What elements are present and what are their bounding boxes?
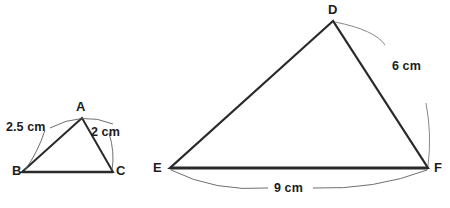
leader-arc-side-ef-right [313, 170, 427, 188]
leader-arc-side-df-top [335, 22, 385, 45]
vertex-label-d: D [328, 3, 337, 16]
measure-label-side-ac: 2 cm [91, 126, 120, 139]
vertex-label-f: F [434, 161, 442, 174]
geometry-canvas [0, 0, 450, 208]
leader-arc-side-ef-left [171, 170, 268, 189]
triangle-def [170, 21, 428, 168]
triangle-def-outline [170, 21, 428, 168]
vertex-label-e: E [153, 161, 162, 174]
geometry-figure: A B C D E F 2.5 cm 2 cm 6 cm 9 cm [0, 0, 450, 208]
leader-arc-side-df-bottom [426, 103, 430, 166]
vertex-label-b: B [12, 164, 21, 177]
vertex-label-a: A [76, 100, 85, 113]
leader-arc-side-ab [25, 130, 45, 170]
measure-label-side-df: 6 cm [392, 60, 421, 73]
measure-label-side-ef: 9 cm [274, 182, 303, 195]
vertex-label-c: C [116, 164, 125, 177]
measure-label-side-ab: 2.5 cm [6, 121, 46, 134]
